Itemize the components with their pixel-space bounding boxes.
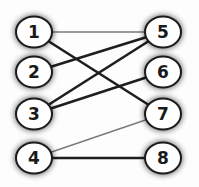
node-label: 2 <box>28 62 40 82</box>
node-label: 6 <box>157 62 169 82</box>
node-label: 4 <box>28 148 40 168</box>
node-7: 7 <box>145 99 181 130</box>
edge-3-6 <box>34 72 163 114</box>
edge-4-7 <box>34 114 163 158</box>
node-label: 5 <box>157 22 169 42</box>
node-6: 6 <box>145 57 181 88</box>
node-3: 3 <box>16 99 52 130</box>
edge-2-5 <box>34 32 163 72</box>
edges-group <box>34 32 163 158</box>
graph-svg: 12345678 <box>0 0 199 187</box>
node-label: 3 <box>28 104 40 124</box>
node-label: 1 <box>28 22 40 42</box>
node-label: 8 <box>157 148 169 168</box>
nodes-group: 12345678 <box>16 17 181 174</box>
node-4: 4 <box>16 143 52 174</box>
node-2: 2 <box>16 57 52 88</box>
node-8: 8 <box>145 143 181 174</box>
node-1: 1 <box>16 17 52 48</box>
bipartite-graph-diagram: 12345678 <box>0 0 199 187</box>
node-5: 5 <box>145 17 181 48</box>
node-label: 7 <box>157 104 169 124</box>
